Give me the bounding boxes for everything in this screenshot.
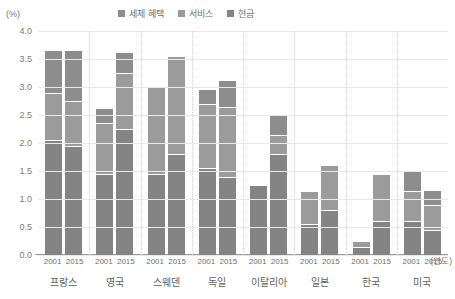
legend-swatch-icon — [178, 10, 185, 17]
bar-segment-cash — [250, 185, 267, 255]
x-country-label: 스웨덴 — [153, 274, 180, 289]
bar-프랑스-2015[interactable] — [65, 51, 82, 255]
bar-segment-cash — [199, 168, 216, 255]
bar-segment-service — [65, 101, 82, 146]
group-separator — [89, 31, 90, 255]
y-axis-tick-label: 0.5 — [19, 222, 32, 232]
group-separator — [346, 31, 347, 255]
x-year-label: 2015 — [373, 257, 392, 266]
y-axis-tick-label: 3.0 — [19, 82, 32, 92]
x-country-label: 영국 — [106, 274, 124, 289]
plot-area: 0.00.51.01.52.02.53.03.54.0 — [38, 31, 448, 255]
bar-segment-service — [199, 104, 216, 168]
bar-segment-service — [270, 135, 287, 155]
group-separator — [294, 31, 295, 255]
x-year-label: 2015 — [116, 257, 135, 266]
y-axis-tick-label: 2.5 — [19, 110, 32, 120]
x-country-label: 일본 — [311, 274, 329, 289]
bar-segment-service — [45, 93, 62, 141]
y-axis-tick-label: 0.0 — [19, 250, 32, 260]
bar-영국-2015[interactable] — [116, 53, 133, 255]
x-label-group-0: 20012015프랑스 — [38, 257, 89, 297]
bar-영국-2001[interactable] — [96, 109, 113, 255]
bar-프랑스-2001[interactable] — [45, 51, 62, 255]
x-label-group-6: 20012015한국 — [346, 257, 397, 297]
x-year-label: 2001 — [197, 257, 216, 266]
gridline — [38, 255, 448, 256]
bar-segment-service — [321, 165, 338, 210]
y-axis-unit-label: (%) — [6, 9, 20, 19]
x-year-labels: 20012015 — [299, 257, 340, 266]
bar-segment-tax — [424, 191, 441, 205]
bar-segment-cash — [219, 177, 236, 255]
bar-segment-cash — [148, 174, 165, 255]
x-year-label: 2001 — [299, 257, 318, 266]
legend-label: 서비스 — [189, 7, 213, 20]
bar-segment-cash — [168, 154, 185, 255]
x-year-label: 2001 — [351, 257, 370, 266]
bar-segment-cash — [424, 230, 441, 255]
x-label-group-3: 20012015독일 — [192, 257, 243, 297]
x-label-group-1: 20012015영국 — [89, 257, 140, 297]
bar-이탈리아-2001[interactable] — [250, 185, 267, 255]
x-year-label: 2001 — [248, 257, 267, 266]
x-country-label: 한국 — [362, 274, 380, 289]
x-label-group-4: 20012015이탈리아 — [243, 257, 294, 297]
y-axis-tick-label: 4.0 — [19, 26, 32, 36]
bar-segment-service — [373, 174, 390, 222]
x-year-label: 2001 — [43, 257, 62, 266]
bar-segment-service — [168, 56, 185, 154]
bar-한국-2015[interactable] — [373, 174, 390, 255]
legend-label: 세제 혜택 — [129, 7, 164, 20]
bar-segment-tax — [199, 90, 216, 104]
bar-segment-service — [219, 107, 236, 177]
x-year-label: 2015 — [270, 257, 289, 266]
x-axis-unit-label: (연도) — [430, 254, 452, 266]
bar-segment-tax — [219, 81, 236, 106]
x-year-label: 2001 — [402, 257, 421, 266]
bar-미국-2015[interactable] — [424, 191, 441, 255]
x-country-label: 프랑스 — [50, 274, 77, 289]
bar-segment-cash — [96, 174, 113, 255]
bar-일본-2001[interactable] — [301, 191, 318, 255]
bar-segment-service — [96, 123, 113, 173]
y-axis-tick-label: 1.0 — [19, 194, 32, 204]
y-axis-tick-label: 1.5 — [19, 166, 32, 176]
bar-일본-2015[interactable] — [321, 165, 338, 255]
bar-segment-cash — [116, 129, 133, 255]
y-axis-tick-label: 3.5 — [19, 54, 32, 64]
x-country-label: 독일 — [208, 274, 226, 289]
x-label-group-2: 20012015스웨덴 — [141, 257, 192, 297]
legend-swatch-icon — [227, 10, 234, 17]
x-year-label: 2015 — [65, 257, 84, 266]
bar-독일-2015[interactable] — [219, 81, 236, 255]
legend-label: 현금 — [238, 7, 254, 20]
bar-segment-cash — [270, 154, 287, 255]
x-axis-labels: 20012015프랑스20012015영국20012015스웨덴20012015… — [38, 257, 448, 297]
bar-segment-service — [301, 191, 318, 225]
bar-segment-tax — [116, 53, 133, 73]
group-separator — [243, 31, 244, 255]
x-year-label: 2015 — [321, 257, 340, 266]
x-year-labels: 20012015 — [43, 257, 84, 266]
bar-한국-2001[interactable] — [353, 241, 370, 255]
legend-swatch-icon — [118, 10, 125, 17]
bar-segment-cash — [353, 247, 370, 255]
x-year-label: 2001 — [146, 257, 165, 266]
bar-segment-service — [404, 191, 421, 222]
group-separator — [192, 31, 193, 255]
legend-item-service: 서비스 — [178, 7, 213, 20]
group-separator — [141, 31, 142, 255]
bar-미국-2001[interactable] — [404, 171, 421, 255]
bar-segment-service — [148, 87, 165, 174]
x-year-labels: 20012015 — [351, 257, 392, 266]
legend-item-cash: 현금 — [227, 7, 254, 20]
chart-container: (%) 세제 혜택서비스현금 0.00.51.01.52.02.53.03.54… — [0, 0, 455, 299]
x-year-labels: 20012015 — [248, 257, 289, 266]
x-country-label: 이탈리아 — [251, 274, 287, 289]
group-separator — [397, 31, 398, 255]
bar-segment-cash — [45, 140, 62, 255]
bar-이탈리아-2015[interactable] — [270, 115, 287, 255]
bar-segment-tax — [96, 109, 113, 123]
x-year-label: 2015 — [219, 257, 238, 266]
